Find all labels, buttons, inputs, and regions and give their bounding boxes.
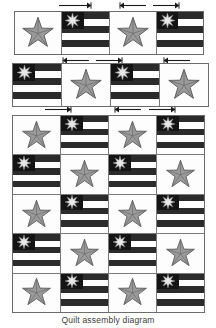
flag-stripe [157,33,203,40]
flag-canton [157,116,179,131]
flag-stripe [13,99,61,106]
flag-stripe [109,266,156,272]
flag-block-cell [157,195,204,233]
flag-block-cell [13,155,61,193]
star-block-cell [61,234,109,272]
five-point-star-icon [21,120,52,151]
eight-point-star-icon [17,156,31,170]
arrow-row-top [0,0,216,11]
five-point-star-icon [165,159,196,190]
flag-block [109,234,156,272]
quilt-row-4 [13,234,204,273]
flag-block [61,274,108,312]
flag-canton [111,64,133,81]
flag-stripe [61,306,108,312]
flag-stripe [13,85,61,92]
star-block [157,234,204,272]
eight-point-star-icon [17,65,32,80]
flag-block-cell [61,116,109,154]
flag-block [109,155,156,193]
five-point-star-icon [117,120,148,151]
five-point-star-icon [69,68,103,102]
flag-block-cell [157,274,204,312]
eight-point-star-icon [65,13,80,28]
eight-point-star-icon [65,195,79,209]
quilt-row-2 [13,155,204,194]
five-point-star-icon [117,277,148,308]
star-block-cell [110,12,157,54]
flag-canton [61,274,83,289]
flag-block-cell [157,116,204,154]
flag-block [13,234,60,272]
flag-block-cell [62,12,109,54]
flag-stripe [62,47,108,54]
flag-canton [13,64,35,81]
flag-block-cell [109,234,157,272]
five-point-star-icon [69,159,100,190]
star-block [160,64,208,106]
flag-canton [157,274,179,289]
flag-block-cell [61,274,109,312]
star-block [62,64,110,106]
quilt-assembly-diagram: Quilt assembly diagram [0,0,216,328]
five-point-star-icon [21,277,52,308]
star-block [61,155,108,193]
flag-stripe [157,148,204,154]
flag-block [157,195,204,233]
star-block-cell [109,116,157,154]
star-block-cell [15,12,62,54]
flag-stripe [13,187,60,193]
quilt-row-1 [13,116,204,155]
eight-point-star-icon [160,13,175,28]
flag-stripe [13,92,61,99]
eight-point-star-icon [113,156,127,170]
flag-block [62,12,108,54]
star-block [13,116,60,154]
quilt-row-3 [13,195,204,234]
quilt-body-grid [12,115,205,313]
star-block-cell [13,274,61,312]
star-block-cell [160,64,208,106]
flag-stripe [13,266,60,272]
quilt-row-5 [13,274,204,312]
flag-block-cell [61,195,109,233]
star-block-cell [109,274,157,312]
flag-canton [13,234,35,249]
flag-block-cell [13,234,61,272]
eight-point-star-icon [161,195,175,209]
star-block-cell [61,155,109,193]
star-block [109,116,156,154]
flag-canton [62,12,83,29]
star-block [61,234,108,272]
star-block-cell [157,234,204,272]
star-block [15,12,61,54]
flag-canton [61,116,83,131]
flag-block-cell [111,64,160,106]
star-block-cell [13,195,61,233]
five-point-star-icon [21,16,55,50]
five-point-star-icon [167,68,201,102]
block-strip-row-1 [14,11,204,55]
flag-stripe [157,40,203,47]
star-block [109,274,156,312]
flag-block [13,155,60,193]
flag-stripe [157,47,203,54]
flag-block [61,195,108,233]
star-block [13,274,60,312]
flag-stripe [111,92,159,99]
flag-stripe [157,227,204,233]
star-block [157,155,204,193]
five-point-star-icon [117,199,148,230]
star-block-cell [13,116,61,154]
star-block-cell [157,155,204,193]
five-point-star-icon [69,238,100,269]
eight-point-star-icon [161,274,175,288]
flag-block-cell [157,12,203,54]
eight-point-star-icon [161,117,175,131]
flag-block [111,64,159,106]
flag-canton [109,234,131,249]
flag-stripe [111,85,159,92]
star-block-cell [109,195,157,233]
flag-stripe [61,227,108,233]
eight-point-star-icon [65,274,79,288]
